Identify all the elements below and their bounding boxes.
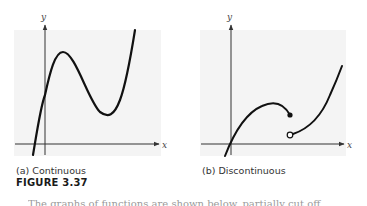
figure-label: FIGURE 3.37	[16, 177, 88, 188]
panel-a-y-label: y	[40, 12, 47, 22]
panel-b-right-piece	[293, 66, 342, 134]
panel-a-x-label: x	[162, 140, 167, 150]
panel-b-filled-dot	[287, 112, 292, 117]
panel-b-caption: (b) Discontinuous	[202, 165, 286, 176]
panel-b-left-piece	[225, 103, 290, 156]
panel-b-plot: x y	[201, 12, 352, 156]
panel-b-x-label: x	[347, 140, 352, 150]
panel-a-plot: x y	[15, 12, 167, 155]
panel-b-open-dot	[287, 132, 293, 138]
clipped-body-text: The graphs of functions are shown below,…	[28, 198, 358, 206]
panel-a-caption: (a) Continuous	[16, 165, 86, 176]
panel-a-continuous-curve	[33, 30, 135, 155]
panel-b-y-label: y	[226, 12, 233, 22]
